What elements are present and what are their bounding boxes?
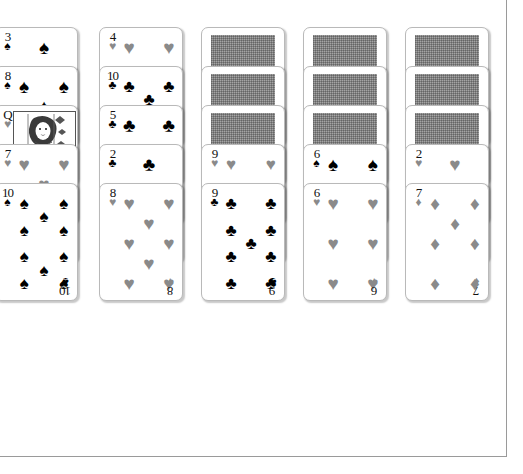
diamond-pip-icon: ♦ [450,213,460,232]
heart-pip-icon: ♥ [143,213,154,232]
spade-pip-icon: ♠ [20,248,29,265]
card-index-bottom-right: 8♥ [163,277,178,298]
heart-pip-icon: ♥ [124,234,135,253]
spade-pip-icon: ♠ [59,76,69,95]
heart-pip-icon: ♥ [163,234,174,253]
spade-pip-icon: ♠ [39,37,49,56]
card-index-bottom-right: 10♠ [58,277,73,298]
heart-pip-icon: ♥ [163,37,174,56]
heart-pip-icon: ♥ [143,254,154,273]
club-pip-icon: ♣ [143,154,155,173]
club-pip-icon: ♣ [226,194,237,211]
solitaire-board: 3♠♠♠♠8♠♠♠♠♠♠♠♠♠Q♥7♥♥♥♥♥♥♥♥10♠♠♠♠♠♠♠♠♠♠♠1… [0,0,523,474]
spade-pip-icon: ♠ [20,275,29,292]
club-pip-icon: ♣ [163,77,174,94]
spade-pip-icon: ♠ [39,208,48,225]
diamond-pip-icon: ♦ [430,234,440,253]
heart-icon: ♥ [163,277,178,286]
card-7-diamond[interactable]: 7♦♦♦♦♦♦♦♦7♦ [405,183,489,301]
card-index-bottom-right: 7♦ [469,277,484,298]
card-6-heart[interactable]: 6♥♥♥♥♥♥♥6♥ [303,183,387,301]
heart-pip-icon: ♥ [367,193,378,212]
spade-pip-icon: ♠ [20,221,29,238]
heart-pip-icon: ♥ [449,154,460,173]
window-border-bottom [0,456,507,457]
heart-icon: ♥ [367,277,382,286]
heart-pip-icon: ♥ [124,193,135,212]
club-pip-icon: ♣ [123,115,135,134]
spade-pip-icon: ♠ [20,194,29,211]
heart-pip-icon: ♥ [58,154,69,173]
card-8-heart[interactable]: 8♥♥♥♥♥♥♥♥♥8♥ [99,183,183,301]
spade-pip-icon: ♠ [39,261,48,278]
club-pip-icon: ♣ [124,77,135,94]
club-pip-icon: ♣ [226,275,237,292]
heart-pip-icon: ♥ [266,155,276,172]
heart-pip-icon: ♥ [328,274,339,293]
heart-pip-icon: ♥ [226,155,236,172]
heart-pip-icon: ♥ [328,234,339,253]
diamond-pip-icon: ♦ [430,193,440,212]
club-pip-icon: ♣ [163,115,175,134]
spade-pip-icon: ♠ [59,221,68,238]
spade-pip-icon: ♠ [368,154,378,173]
heart-pip-icon: ♥ [328,193,339,212]
diamond-pip-icon: ♦ [470,234,480,253]
heart-pip-icon: ♥ [19,154,30,173]
card-index-bottom-right: 6♥ [367,277,382,298]
heart-pip-icon: ♥ [163,193,174,212]
club-icon: ♣ [265,277,280,286]
spade-pip-icon: ♠ [19,76,29,95]
heart-pip-icon: ♥ [367,234,378,253]
heart-pip-icon: ♥ [124,37,135,56]
heart-pip-icon: ♥ [124,274,135,293]
club-pip-icon: ♣ [265,248,276,265]
card-10-spade[interactable]: 10♠♠♠♠♠♠♠♠♠♠♠10♠ [0,183,78,301]
club-pip-icon: ♣ [226,248,237,265]
card-9-club[interactable]: 9♣♣♣♣♣♣♣♣♣♣9♣ [201,183,285,301]
diamond-icon: ♦ [469,277,484,286]
diamond-pip-icon: ♦ [430,274,440,293]
club-pip-icon: ♣ [265,221,276,238]
spade-pip-icon: ♠ [59,248,68,265]
spade-pip-icon: ♠ [59,194,68,211]
spade-pip-icon: ♠ [328,154,338,173]
club-pip-icon: ♣ [265,194,276,211]
card-index-bottom-right: 9♣ [265,277,280,298]
diamond-pip-icon: ♦ [470,193,480,212]
club-pip-icon: ♣ [245,235,256,252]
window-border-right [506,0,507,457]
club-pip-icon: ♣ [226,221,237,238]
